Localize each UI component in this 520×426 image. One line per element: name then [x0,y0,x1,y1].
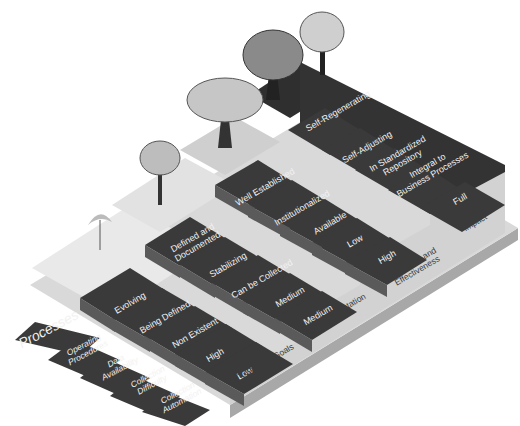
maturity-staircase-diagram: Processes OperatingProcedures DataAvaila… [0,0,520,426]
